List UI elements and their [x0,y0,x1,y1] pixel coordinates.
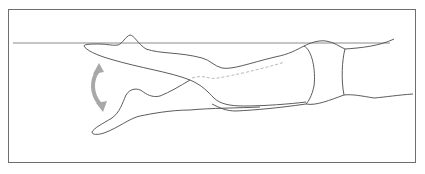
hip-band-top [304,41,345,49]
leg-upper-sole [84,46,306,106]
hip-band-back [342,49,345,95]
torso-bottom [344,94,413,98]
hidden-contour-dashed [192,62,285,78]
up-down-motion-arrow [93,63,107,112]
leg-lower-underside [212,104,306,111]
flutter-kick-illustration [0,0,425,174]
leg-upper-position [84,35,304,68]
hip-band-front [304,46,315,104]
torso-top [345,39,394,49]
leg-lower-position [92,80,260,134]
hip-band-bottom [306,95,344,104]
